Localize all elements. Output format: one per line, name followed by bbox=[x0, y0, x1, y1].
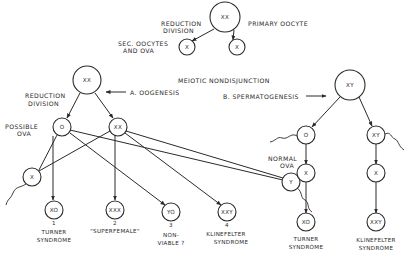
secondary-label-1: SEC. OOCYTES bbox=[118, 40, 168, 47]
oogenesis-reduction-label-2: DIVISION bbox=[28, 100, 59, 107]
spermatogenesis-section: B. SPERMATOGENESIS XY O XY NORMAL OVA X … bbox=[223, 70, 404, 251]
top-normal-meiosis: XX X X PRIMARY OOCYTE REDUCTION DIVISION… bbox=[118, 2, 308, 55]
edge-top-left bbox=[192, 29, 214, 41]
outcome-3: YO 3 NON- VIABLE ? bbox=[158, 203, 185, 246]
sperm-outcome-2: XXY KLINEFELTER SYNDROME bbox=[356, 213, 395, 251]
edge-o-to-yo bbox=[70, 133, 165, 205]
outcome-1: XO 1 TURNER SYNDROME bbox=[37, 201, 72, 243]
outcome-line1: NON- bbox=[163, 232, 179, 238]
normal-ovum-node-right-label: X bbox=[374, 170, 378, 176]
outcome-line1: "SUPERFEMALE" bbox=[90, 228, 140, 234]
outcome-line2: SYNDROME bbox=[289, 244, 324, 250]
outcome-line2: SYNDROME bbox=[37, 237, 72, 243]
oogenesis-reduction-label-1: REDUCTION bbox=[25, 92, 66, 99]
normal-ovum-node-left-label: X bbox=[304, 170, 308, 176]
possible-ova-label-1: POSSIBLE bbox=[5, 123, 38, 130]
outcome-line1: TURNER bbox=[293, 236, 319, 242]
outcome-line1: TURNER bbox=[41, 229, 67, 235]
outcome-node-label: XO bbox=[302, 219, 311, 225]
spermatogenesis-section-label: B. SPERMATOGENESIS bbox=[223, 93, 299, 100]
edge-xy-to-xy bbox=[359, 97, 372, 126]
oogenesis-section-label: A. OOGENESIS bbox=[130, 89, 180, 96]
edge-o-to-sperm-y bbox=[70, 130, 283, 180]
edge-o-to-sperm-x bbox=[39, 135, 57, 170]
outcome-number: 3 bbox=[169, 222, 173, 228]
outcome-number: 4 bbox=[225, 222, 229, 228]
outcome-line2: VIABLE ? bbox=[158, 240, 185, 246]
sperm-node-o-label: O bbox=[304, 132, 309, 138]
edge-xx-to-o bbox=[67, 93, 80, 118]
edge-xy-to-o bbox=[312, 97, 340, 127]
oogenesis-parent-node-label: XX bbox=[83, 77, 91, 83]
outcome-number: 1 bbox=[52, 220, 56, 226]
secondary-node-label-left: X bbox=[185, 44, 189, 50]
outcome-node-label: XXX bbox=[109, 207, 121, 213]
heading-meiotic-nondisjunction: MEIOTIC NONDISJUNCTION bbox=[178, 77, 270, 85]
outcome-line1: KLINEFELTER bbox=[206, 231, 245, 237]
outcome-node-label: XO bbox=[50, 207, 59, 213]
nondisjunction-diagram: XX X X PRIMARY OOCYTE REDUCTION DIVISION… bbox=[0, 0, 411, 253]
edge-xx-to-sperm-y bbox=[126, 131, 283, 178]
sperm-x-tail bbox=[6, 184, 26, 205]
outcome-4: XXY 4 KLINEFELTER SYNDROME bbox=[206, 203, 248, 245]
spermatogenesis-parent-node-label: XY bbox=[346, 82, 354, 88]
outcome-2: XXX 2 "SUPERFEMALE" bbox=[90, 201, 140, 234]
sperm-node-x-label: X bbox=[30, 174, 34, 180]
primary-oocyte-node-label: XX bbox=[221, 14, 229, 20]
edge-top-right bbox=[233, 30, 234, 40]
top-reduction-label-2: DIVISION bbox=[163, 27, 194, 34]
edge-xx-to-xxy bbox=[125, 133, 221, 205]
sperm-node-xy-label: XY bbox=[372, 132, 380, 138]
top-reduction-label-1: REDUCTION bbox=[161, 20, 202, 27]
possible-ova-label-2: OVA bbox=[17, 130, 31, 137]
normal-ova-label-2: OVA bbox=[280, 162, 294, 169]
sperm-outcome-1: XO TURNER SYNDROME bbox=[289, 213, 324, 250]
sperm-y-tail bbox=[297, 188, 312, 212]
normal-ova-label-1: NORMAL bbox=[268, 155, 297, 162]
outcome-node-label: YO bbox=[166, 209, 175, 215]
primary-oocyte-label: PRIMARY OOCYTE bbox=[248, 20, 308, 27]
ovum-node-o-label: O bbox=[60, 124, 65, 130]
ovum-node-xx-label: XX bbox=[114, 124, 122, 130]
outcome-line1: KLINEFELTER bbox=[356, 237, 395, 243]
outcome-number: 2 bbox=[113, 220, 117, 226]
outcome-node-label: XXY bbox=[221, 209, 233, 215]
sperm-node-y-label: Y bbox=[288, 179, 293, 185]
sperm-xy-tail bbox=[385, 133, 404, 150]
outcome-line2: SYNDROME bbox=[359, 245, 394, 251]
outcome-node-label: XXY bbox=[370, 219, 382, 225]
outcome-line2: SYNDROME bbox=[214, 239, 249, 245]
secondary-node-label-right: X bbox=[235, 44, 239, 50]
edge-xx-to-xx bbox=[95, 93, 113, 118]
sperm-o-tail bbox=[270, 135, 297, 142]
secondary-label-2: AND OVA bbox=[123, 47, 155, 54]
